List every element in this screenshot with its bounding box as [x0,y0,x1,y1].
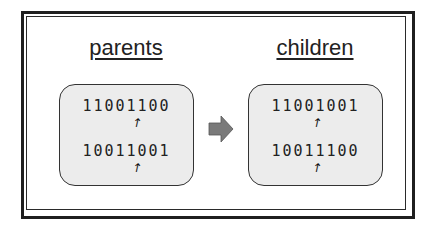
crossover-pointer-icon: ↑ [311,116,324,130]
children-box: 11001001 ↑ 10011100 ↑ [248,84,383,186]
child-chromosome-1: 11001001 [249,97,382,115]
parents-box: 11001100 ↑ 10011001 ↑ [59,84,194,186]
parent-chromosome-2: 10011001 [60,142,193,160]
parent-chromosome-1: 11001100 [60,97,193,115]
child-chromosome-2: 10011100 [249,142,382,160]
parents-heading: parents [56,35,196,61]
crossover-pointer-icon: ↑ [311,161,324,175]
crossover-pointer-icon: ↑ [131,116,144,130]
right-arrow-icon [208,115,234,143]
crossover-pointer-icon: ↑ [131,161,144,175]
children-heading: children [245,35,385,61]
